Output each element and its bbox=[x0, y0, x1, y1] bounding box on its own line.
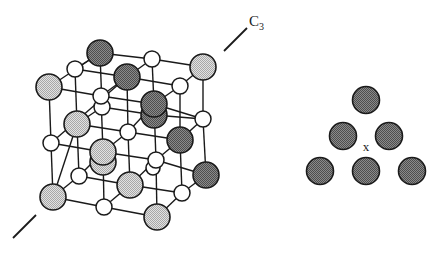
small-atom bbox=[195, 111, 211, 127]
light-atom bbox=[64, 111, 90, 137]
small-atom bbox=[144, 51, 160, 67]
layer-atom bbox=[376, 123, 403, 150]
light-atom bbox=[36, 74, 62, 100]
light-atom bbox=[144, 204, 170, 230]
small-atom bbox=[96, 199, 112, 215]
small-atom bbox=[174, 185, 190, 201]
light-atom bbox=[90, 139, 116, 165]
dark-atom bbox=[167, 127, 193, 153]
light-atom bbox=[117, 172, 143, 198]
layer-atom bbox=[353, 87, 380, 114]
small-atom bbox=[71, 168, 87, 184]
small-atom bbox=[67, 61, 83, 77]
layer-atom bbox=[330, 123, 357, 150]
axis-line-bottom bbox=[13, 215, 36, 238]
center-marker: x bbox=[363, 139, 370, 154]
layer-atom bbox=[353, 158, 380, 185]
layer-atom bbox=[307, 158, 334, 185]
small-atom bbox=[172, 78, 188, 94]
axis-label: C3 bbox=[249, 13, 264, 32]
small-atom bbox=[120, 124, 136, 140]
axis-line-top bbox=[224, 28, 247, 51]
layer-atom bbox=[399, 158, 426, 185]
small-atom bbox=[93, 88, 109, 104]
dark-atom bbox=[141, 91, 167, 117]
small-atom bbox=[148, 152, 164, 168]
light-atom bbox=[190, 54, 216, 80]
crystal-diagram: C3 bbox=[0, 0, 438, 254]
small-atom bbox=[43, 135, 59, 151]
dark-atom bbox=[193, 162, 219, 188]
dark-atom bbox=[114, 64, 140, 90]
light-atom bbox=[40, 184, 66, 210]
triangular-layer bbox=[307, 87, 426, 185]
dark-atom bbox=[87, 40, 113, 66]
